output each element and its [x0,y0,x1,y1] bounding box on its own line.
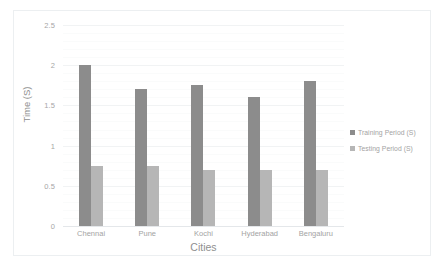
bar-groups [63,25,344,226]
legend-label: Testing Period (S) [358,145,413,152]
x-axis-tick-label: Pune [119,229,175,238]
y-axis-tick-label: 2.5 [44,21,55,30]
legend-swatch-icon [350,146,355,151]
legend-item[interactable]: Testing Period (S) [350,145,430,152]
y-axis-tick-label: 2 [51,61,55,70]
legend-label: Training Period (S) [358,129,416,136]
y-axis-tick-label: 1 [51,141,55,150]
bar-group [63,25,119,226]
x-axis-tick-label: Chennai [63,229,119,238]
bar[interactable] [191,85,203,226]
bar[interactable] [316,170,328,226]
bar[interactable] [79,65,91,226]
bar[interactable] [135,89,147,226]
x-axis-labels: ChennaiPuneKochiHyderabadBengaluru [63,229,344,238]
y-axis-tick-label: 0.5 [44,181,55,190]
chart-frame: 00.511.522.5 Time (S) ChennaiPuneKochiHy… [13,10,431,256]
chart-legend: Training Period (S)Testing Period (S) [350,129,430,161]
bar-group [119,25,175,226]
x-axis-tick-label: Bengaluru [288,229,344,238]
bar[interactable] [91,166,103,226]
gridline [63,226,344,227]
bar-group [288,25,344,226]
bar[interactable] [248,97,260,226]
y-axis-tick-label: 0 [51,222,55,231]
x-axis-tick-label: Kochi [175,229,231,238]
bar[interactable] [203,170,215,226]
bar-group [175,25,231,226]
y-axis-title: Time (S) [21,70,32,140]
bar[interactable] [304,81,316,226]
bar-group [232,25,288,226]
x-axis-tick-label: Hyderabad [232,229,288,238]
bar[interactable] [147,166,159,226]
legend-swatch-icon [350,130,355,135]
x-axis-title: Cities [63,241,344,253]
y-axis-tick-label: 1.5 [44,101,55,110]
legend-item[interactable]: Training Period (S) [350,129,430,136]
bar[interactable] [260,170,272,226]
